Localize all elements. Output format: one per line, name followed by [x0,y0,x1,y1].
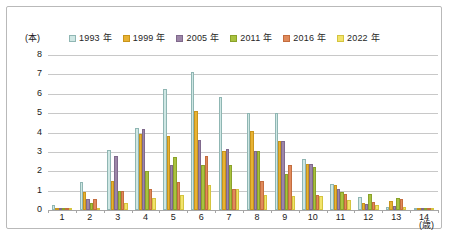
x-axis-tickmark [438,210,439,213]
legend-entry[interactable]: 2016 年 [283,33,326,43]
x-axis-tick-label: 3 [115,212,120,222]
y-axis-tick-label: 4 [12,127,42,137]
legend-label: 2016 年 [293,33,326,43]
y-axis-tick-label: 1 [12,185,42,195]
bar[interactable] [180,195,183,210]
legend-entry[interactable]: 1993 年 [69,33,112,43]
bar[interactable] [319,196,322,210]
legend-swatch-icon [123,35,130,42]
bar[interactable] [264,195,267,210]
x-axis-tick-label: 5 [171,212,176,222]
x-axis-tick-label: 12 [363,212,373,222]
legend-entry[interactable]: 1999 年 [123,33,166,43]
legend-entry[interactable]: 2022 年 [337,33,380,43]
x-axis-tick-label: 10 [308,212,318,222]
y-axis-tick-label: 8 [12,49,42,59]
y-axis-tick-labels: 012345678 [12,55,42,210]
bar[interactable] [124,203,127,210]
plot-area [48,55,438,210]
y-axis-tick-label: 3 [12,146,42,156]
bar-group [76,55,104,210]
legend-label: 2011 年 [240,33,272,43]
x-axis-tick-label: 6 [199,212,204,222]
legend-label: 2005 年 [186,33,219,43]
legend-label: 1993 年 [79,33,112,43]
chart-container: 1993 年1999 年2005 年2011 年2016 年2022 年 (本)… [6,6,442,229]
bar-group [410,55,438,210]
bar-group [48,55,76,210]
x-axis-tick-label: 8 [254,212,259,222]
bar-group [187,55,215,210]
bar-group [104,55,132,210]
y-axis-tick-label: 0 [12,204,42,214]
x-axis-tick-label: 2 [87,212,92,222]
bar[interactable] [69,208,72,210]
y-axis-tick-label: 6 [12,88,42,98]
legend-swatch-icon [283,35,290,42]
bar-group [299,55,327,210]
y-axis-tick-label: 5 [12,107,42,117]
x-axis-tick-label: 4 [143,212,148,222]
x-axis-tick-label: 14 [419,212,429,222]
bar[interactable] [97,208,100,210]
bar[interactable] [403,207,406,210]
x-axis-tick-labels: 1234567891011121314 [48,212,438,226]
bar[interactable] [152,198,155,210]
x-axis-tick-label: 1 [59,212,64,222]
legend-swatch-icon [69,35,76,42]
bar[interactable] [375,205,378,210]
y-axis-unit-label: (本) [25,31,40,44]
x-axis-tick-label: 7 [227,212,232,222]
x-axis-tick-label: 9 [282,212,287,222]
legend-entry[interactable]: 2011 年 [230,33,272,43]
x-axis-tick-label: 13 [391,212,401,222]
bar-group [382,55,410,210]
bar-group [327,55,355,210]
bar[interactable] [208,185,211,210]
bar-group [132,55,160,210]
legend-swatch-icon [230,35,237,42]
y-axis-tick-label: 2 [12,165,42,175]
bar[interactable] [292,196,295,210]
bar[interactable] [347,200,350,210]
y-axis-tick-label: 7 [12,68,42,78]
bar-group [243,55,271,210]
chart-legend: 1993 年1999 年2005 年2011 年2016 年2022 年 [69,31,380,45]
legend-entry[interactable]: 2005 年 [176,33,219,43]
legend-label: 1999 年 [133,33,166,43]
legend-label: 2022 年 [347,33,380,43]
bar-group [271,55,299,210]
bar-group [159,55,187,210]
bar[interactable] [236,189,239,210]
bar-group [215,55,243,210]
bar[interactable] [431,208,434,210]
legend-swatch-icon [176,35,183,42]
x-axis-tick-label: 11 [336,212,345,222]
bar-group [354,55,382,210]
legend-swatch-icon [337,35,344,42]
